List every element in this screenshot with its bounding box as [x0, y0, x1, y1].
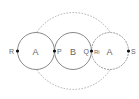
label-p: P: [57, 48, 62, 55]
label-q: Q: [84, 48, 90, 56]
label-ri: Ri: [94, 49, 100, 55]
label-circle-b: B: [70, 47, 76, 57]
label-circle-a-right: A: [107, 47, 113, 57]
circle-diagram: R A P B Q Ri A S: [0, 0, 139, 99]
point-r: [16, 49, 19, 52]
label-r: R: [9, 48, 14, 55]
label-circle-a-left: A: [33, 47, 39, 57]
point-q: [90, 49, 93, 52]
outer-dashed-arc-top: [37, 13, 110, 32]
point-s: [127, 49, 130, 52]
outer-dashed-arc-bottom: [37, 70, 110, 89]
point-p: [53, 49, 56, 52]
label-s: S: [131, 48, 136, 55]
